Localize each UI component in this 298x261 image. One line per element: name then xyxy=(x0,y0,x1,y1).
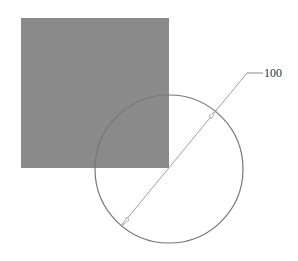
gray-square xyxy=(21,18,169,168)
arrowhead-upper-icon xyxy=(209,110,217,119)
diagram-canvas: 100 xyxy=(0,0,298,261)
callout-label: 100 xyxy=(264,66,282,80)
arrowhead-lower-icon xyxy=(122,217,130,226)
